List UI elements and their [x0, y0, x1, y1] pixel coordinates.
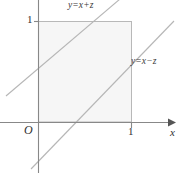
x-axis-tick-label-1: 1	[128, 126, 134, 137]
x-axis-label: x	[170, 127, 175, 138]
origin-label: O	[24, 124, 33, 136]
y-axis-tick-label-1: 1	[27, 14, 33, 25]
lower-line-equation-label: y=x−z	[131, 57, 156, 67]
unit-square-region	[39, 22, 132, 123]
upper-line-equation-label: y=x+z	[68, 1, 93, 11]
figure-canvas	[0, 0, 183, 181]
math-figure: 1 1 O x y=x+z y=x−z	[0, 0, 183, 181]
